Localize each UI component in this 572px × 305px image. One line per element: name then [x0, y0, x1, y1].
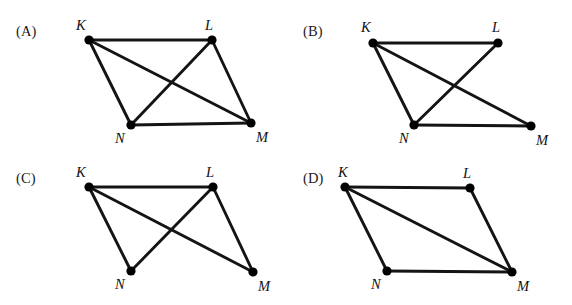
node-d-n	[382, 266, 391, 275]
edge-d-lm	[470, 188, 512, 272]
node-d-k	[340, 182, 349, 191]
node-label-d-k: K	[338, 165, 348, 180]
node-d-m	[507, 267, 516, 276]
figure-root: (A)KLNM(B)KLNM(C)KLNM(D)KLNM	[0, 0, 572, 305]
node-d-l	[465, 183, 474, 192]
panel-tag-d: (D)	[303, 171, 323, 186]
graph-canvas-d	[0, 0, 572, 305]
node-label-d-m: M	[517, 279, 529, 294]
panel-d: (D)KLNM	[0, 0, 572, 305]
edge-d-kl	[345, 187, 470, 188]
node-label-d-l: L	[463, 166, 471, 181]
edge-d-kn	[345, 187, 387, 271]
node-label-d-n: N	[371, 277, 381, 292]
edge-d-km	[345, 187, 512, 272]
edge-d-nm	[387, 271, 512, 272]
